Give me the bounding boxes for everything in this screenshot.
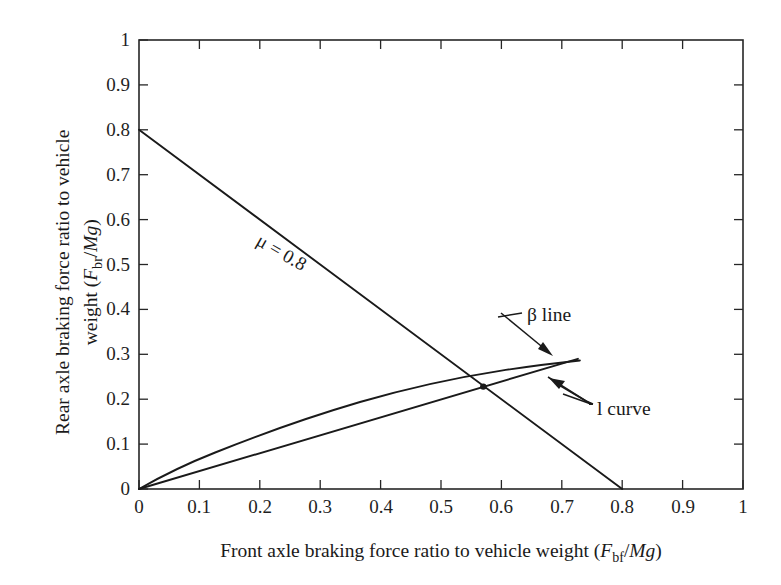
x-tick-label-2: 0.2 xyxy=(248,496,272,518)
l-curve-annotation: l curve xyxy=(597,398,651,420)
x-tick-label-0: 0 xyxy=(134,496,144,518)
x-axis-title-text: Front axle braking force ratio to vehicl… xyxy=(220,540,600,561)
y-axis-denominator: Mg xyxy=(79,226,100,252)
y-axis-symbol-F: F xyxy=(79,269,100,281)
braking-force-chart-figure: 0 0.1 0.2 0.3 0.4 0.5 0.6 0.7 0.8 0.9 1 … xyxy=(0,0,781,585)
top-axis-ticks xyxy=(199,40,682,49)
y-axis-title-weight: weight ( xyxy=(79,281,100,345)
y-axis-ticks xyxy=(139,40,148,489)
plot-frame xyxy=(139,40,743,489)
x-tick-label-8: 0.8 xyxy=(610,496,634,518)
x-tick-label-6: 0.6 xyxy=(489,496,513,518)
beta-arrowhead xyxy=(538,342,553,356)
y-tick-label-10: 1 xyxy=(80,29,130,51)
x-tick-label-4: 0.4 xyxy=(369,496,393,518)
y-axis-title: Rear axle braking force ratio to vehicle… xyxy=(49,52,108,512)
y-axis-title-line2: weight (Fbr/Mg) xyxy=(76,52,107,512)
beta-line-annotation: β line xyxy=(527,304,571,326)
x-axis-title: Front axle braking force ratio to vehicl… xyxy=(139,540,743,566)
x-axis-symbol-sub: bf xyxy=(612,549,624,565)
y-axis-symbol-sub: br xyxy=(88,257,104,269)
beta-line xyxy=(139,359,578,489)
y-axis-slash: / xyxy=(79,252,100,257)
y-axis-paren-close: ) xyxy=(79,219,100,226)
intersection-marker xyxy=(480,383,486,389)
x-tick-label-5: 0.5 xyxy=(429,496,453,518)
x-tick-label-10: 1 xyxy=(738,496,748,518)
y-axis-title-line1: Rear axle braking force ratio to vehicle xyxy=(49,52,77,512)
x-axis-symbol-F: F xyxy=(600,540,612,561)
x-axis-paren-close: ) xyxy=(655,540,662,561)
x-tick-label-3: 0.3 xyxy=(308,496,332,518)
right-axis-ticks xyxy=(734,85,743,444)
x-tick-label-7: 0.7 xyxy=(550,496,574,518)
x-axis-ticks xyxy=(139,480,743,489)
x-axis-denominator: Mg xyxy=(629,540,655,561)
x-tick-label-9: 0.9 xyxy=(671,496,695,518)
l-curve-leader xyxy=(548,377,593,404)
x-tick-label-1: 0.1 xyxy=(187,496,211,518)
